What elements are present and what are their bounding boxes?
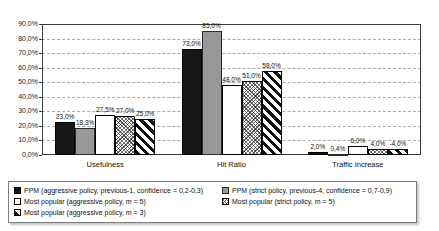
category-label: Hit Ratio bbox=[187, 160, 277, 169]
y-axis-tick-label: 60,0% bbox=[4, 64, 38, 72]
y-axis-tick-mark bbox=[39, 39, 42, 40]
y-axis-tick-label: 80,0% bbox=[4, 35, 38, 43]
legend-label: PPM (aggressive policy, previous-1, conf… bbox=[24, 186, 203, 195]
legend-swatch-solid-gray bbox=[222, 187, 229, 194]
legend-label: Most popular (strict policy, m = 5) bbox=[232, 197, 335, 206]
y-axis-tick-label: 20,0% bbox=[4, 122, 38, 130]
category-label: Usefulness bbox=[60, 160, 150, 169]
bar-diagonal-stripes-usefulness bbox=[135, 119, 155, 155]
y-axis-tick-label: 50,0% bbox=[4, 78, 38, 86]
bar-value-label: 85,0% bbox=[195, 22, 229, 30]
y-axis-tick-label: 70,0% bbox=[4, 49, 38, 57]
y-axis-tick-mark bbox=[39, 126, 42, 127]
legend-item: Most popular (aggressive policy, m = 5) bbox=[14, 197, 146, 206]
y-axis-tick-mark bbox=[39, 140, 42, 141]
y-axis-tick-label: 90,0% bbox=[4, 20, 38, 28]
bar-diagonal-stripes-traffic-increase bbox=[388, 149, 408, 155]
bar-value-label: 25,0% bbox=[128, 110, 162, 118]
bar-value-label: -4,0% bbox=[381, 140, 415, 148]
y-axis-tick-mark bbox=[39, 53, 42, 54]
y-axis-tick-mark bbox=[39, 111, 42, 112]
legend-swatch-solid-black bbox=[14, 187, 21, 194]
y-axis-tick-label: 10,0% bbox=[4, 136, 38, 144]
legend-label: PPM (strict policy, previous-4, confiden… bbox=[232, 186, 392, 195]
bar-fine-crosshatch-usefulness bbox=[115, 116, 135, 155]
bar-solid-gray-usefulness bbox=[75, 128, 95, 155]
y-axis-tick-label: 30,0% bbox=[4, 107, 38, 115]
bar-chart-figure: 0,0%10,0%20,0%30,0%40,0%50,0%60,0%70,0%8… bbox=[0, 0, 439, 231]
y-axis-tick-label: 0,0% bbox=[4, 151, 38, 159]
legend-label: Most popular (aggressive policy, m = 3) bbox=[24, 208, 146, 217]
legend-item: PPM (aggressive policy, previous-1, conf… bbox=[14, 186, 203, 195]
bar-white-outline-usefulness bbox=[95, 115, 115, 155]
bar-fine-crosshatch-hit-ratio bbox=[242, 81, 262, 155]
legend-swatch-diagonal-stripes bbox=[14, 209, 21, 216]
bar-solid-black-hit-ratio bbox=[182, 49, 202, 155]
y-axis-tick-mark bbox=[39, 82, 42, 83]
y-axis-tick-mark bbox=[39, 68, 42, 69]
bar-fine-crosshatch-traffic-increase bbox=[368, 149, 388, 155]
y-axis-tick-mark bbox=[39, 155, 42, 156]
legend-swatch-white-outline bbox=[14, 198, 21, 205]
bar-diagonal-stripes-hit-ratio bbox=[262, 71, 282, 155]
legend: PPM (aggressive policy, previous-1, conf… bbox=[8, 181, 417, 223]
bar-solid-gray-hit-ratio bbox=[202, 31, 222, 155]
legend-item: Most popular (aggressive policy, m = 3) bbox=[14, 208, 146, 217]
y-axis-tick-mark bbox=[39, 97, 42, 98]
bar-solid-gray-traffic-increase bbox=[328, 154, 348, 156]
category-label: Traffic Increase bbox=[313, 160, 403, 169]
legend-item: PPM (strict policy, previous-4, confiden… bbox=[222, 186, 392, 195]
y-axis-tick-label: 40,0% bbox=[4, 93, 38, 101]
legend-swatch-fine-crosshatch bbox=[222, 198, 229, 205]
legend-item: Most popular (strict policy, m = 5) bbox=[222, 197, 335, 206]
y-axis-tick-mark bbox=[39, 24, 42, 25]
legend-label: Most popular (aggressive policy, m = 5) bbox=[24, 197, 146, 206]
bar-value-label: 58,0% bbox=[255, 62, 289, 70]
bar-white-outline-hit-ratio bbox=[222, 85, 242, 155]
